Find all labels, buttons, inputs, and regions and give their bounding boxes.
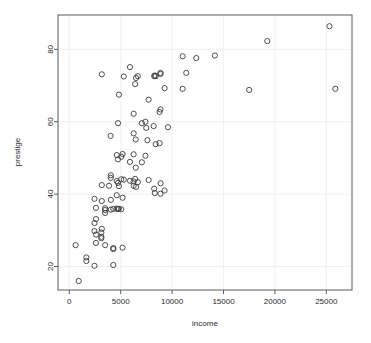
y-tick-label: 80 bbox=[46, 44, 55, 53]
x-tick-label: 5000 bbox=[112, 297, 130, 306]
data-point bbox=[92, 263, 97, 268]
data-point bbox=[184, 70, 189, 75]
data-point bbox=[180, 86, 185, 91]
data-point bbox=[127, 65, 132, 70]
x-tick-label: 25000 bbox=[315, 297, 338, 306]
data-point bbox=[247, 87, 252, 92]
data-point bbox=[127, 178, 132, 183]
data-point bbox=[127, 159, 132, 164]
data-point bbox=[145, 138, 150, 143]
data-point bbox=[194, 55, 199, 60]
data-point bbox=[121, 74, 126, 79]
data-point bbox=[265, 38, 270, 43]
data-point bbox=[151, 123, 156, 128]
data-point bbox=[131, 111, 136, 116]
data-point bbox=[99, 182, 104, 187]
data-point bbox=[131, 152, 136, 157]
data-point bbox=[180, 54, 185, 59]
data-point bbox=[76, 278, 81, 283]
data-points-group bbox=[73, 24, 338, 284]
data-point bbox=[139, 160, 144, 165]
y-axis-label: prestige bbox=[13, 137, 22, 166]
data-point bbox=[93, 205, 98, 210]
plot-frame bbox=[58, 15, 352, 290]
grid-lines bbox=[58, 15, 352, 290]
scatter-plot-figure: 050001000015000200002500020406080 income… bbox=[0, 0, 371, 343]
scatter-plot-canvas: 050001000015000200002500020406080 income… bbox=[0, 0, 371, 343]
y-tick-label: 20 bbox=[46, 261, 55, 270]
data-point bbox=[133, 82, 138, 87]
data-point bbox=[84, 255, 89, 260]
x-axis-label: income bbox=[192, 319, 218, 328]
y-tick-label: 40 bbox=[46, 189, 55, 198]
data-point bbox=[144, 125, 149, 130]
x-tick-label: 10000 bbox=[161, 297, 184, 306]
data-point bbox=[99, 198, 104, 203]
data-point bbox=[108, 197, 113, 202]
data-point bbox=[146, 177, 151, 182]
x-tick-label: 0 bbox=[67, 297, 72, 306]
data-point bbox=[158, 181, 163, 186]
y-tick-label: 60 bbox=[46, 117, 55, 126]
data-point bbox=[73, 243, 78, 248]
data-point bbox=[143, 153, 148, 158]
data-point bbox=[146, 97, 151, 102]
data-point bbox=[162, 188, 167, 193]
data-point bbox=[327, 24, 332, 29]
data-point bbox=[165, 125, 170, 130]
axis-ticks bbox=[54, 49, 326, 294]
data-point bbox=[99, 72, 104, 77]
x-tick-label: 15000 bbox=[212, 297, 235, 306]
data-point bbox=[114, 193, 119, 198]
data-point bbox=[93, 240, 98, 245]
data-point bbox=[92, 196, 97, 201]
data-point bbox=[162, 85, 167, 90]
data-point bbox=[333, 86, 338, 91]
data-point bbox=[99, 226, 104, 231]
data-point bbox=[106, 183, 111, 188]
data-point bbox=[108, 133, 113, 138]
plot-frame-rect bbox=[58, 15, 352, 290]
data-point bbox=[212, 53, 217, 58]
data-point bbox=[133, 137, 138, 142]
data-point bbox=[103, 243, 108, 248]
data-point bbox=[133, 165, 138, 170]
x-tick-label: 20000 bbox=[264, 297, 287, 306]
data-point bbox=[131, 131, 136, 136]
